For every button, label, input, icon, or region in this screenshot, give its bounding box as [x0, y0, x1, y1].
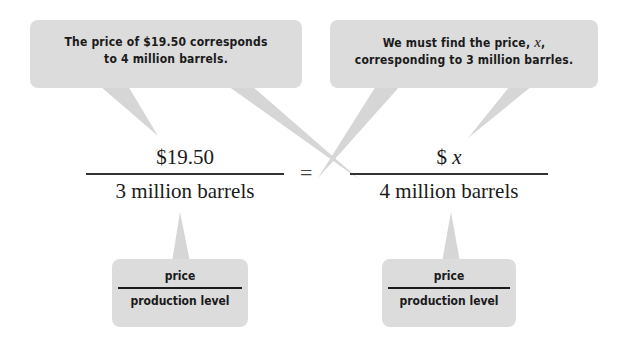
label-ratio-left: price production level — [112, 259, 248, 327]
label-fraction-bar — [388, 287, 510, 289]
fraction-left-denominator: 3 million barrels — [86, 178, 284, 204]
fraction-right: $ x 4 million barrels — [350, 144, 548, 204]
label-left-denominator: production level — [112, 292, 248, 310]
callout-right-line2: corresponding to 3 million barrles. — [330, 52, 598, 69]
label-left-numerator: price — [112, 267, 248, 285]
label-right-denominator: production level — [382, 292, 516, 310]
fraction-left: $19.50 3 million barrels — [86, 144, 284, 204]
label-right-numerator: price — [382, 267, 516, 285]
fraction-bar — [350, 173, 548, 175]
fraction-right-denominator: 4 million barrels — [350, 178, 548, 204]
dollar-sign: $ — [436, 145, 452, 169]
pointer-left-to-numerator — [100, 86, 158, 136]
pointer-right-to-numerator — [468, 86, 532, 138]
label-ratio-right: price production level — [382, 259, 516, 327]
callout-right-prefix: We must find the price, — [383, 36, 534, 50]
callout-right-suffix: , — [541, 36, 545, 50]
callout-right-line1: We must find the price, x, — [330, 34, 598, 52]
proportion-diagram: The price of $19.50 corresponds to 4 mil… — [0, 0, 621, 344]
pointer-label-left — [172, 212, 190, 262]
callout-left-line2: to 4 million barrels. — [30, 51, 302, 68]
callout-given-price: The price of $19.50 corresponds to 4 mil… — [30, 20, 302, 88]
fraction-left-numerator: $19.50 — [86, 144, 284, 170]
callout-find-price: We must find the price, x, corresponding… — [330, 20, 598, 88]
variable-x: x — [452, 145, 461, 169]
variable-x: x — [534, 34, 541, 50]
fraction-right-numerator: $ x — [350, 144, 548, 170]
fraction-bar — [86, 173, 284, 175]
pointer-label-right — [442, 212, 460, 262]
callout-left-line1: The price of $19.50 corresponds — [30, 34, 302, 51]
equals-sign: = — [300, 160, 312, 186]
label-fraction-bar — [118, 287, 242, 289]
